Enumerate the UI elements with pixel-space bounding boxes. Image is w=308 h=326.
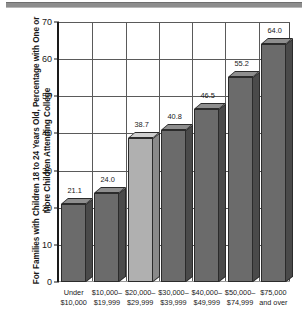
x-tick-label: $20,000–$29,999 [124, 288, 157, 307]
x-tick-label-line: and over [257, 298, 290, 308]
y-tick-label: 70 [42, 17, 59, 27]
x-tick-label-line: $74,999 [223, 298, 256, 308]
x-tick-label-line: $50,000– [223, 288, 256, 298]
bar-value-label: 24.0 [100, 175, 114, 184]
gridline-vertical [126, 22, 127, 282]
bar[interactable] [61, 204, 86, 282]
top-divider-rule [6, 2, 302, 8]
bar-face-side [219, 104, 226, 282]
bar-face-side [286, 39, 293, 282]
bar-value-label: 46.5 [200, 91, 214, 100]
x-tick-label: $30,000–$39,999 [157, 288, 190, 307]
y-tick-label: 50 [42, 91, 59, 101]
y-tick-label: 10 [42, 240, 59, 250]
x-tick-label-line: $10,000– [90, 288, 123, 298]
y-tick-label: 60 [42, 54, 59, 64]
y-tick-label: 20 [42, 203, 59, 213]
bar[interactable] [94, 193, 119, 282]
x-tick-label: $10,000–$19,999 [90, 288, 123, 307]
x-tick-label: $75,000and over [257, 288, 290, 307]
bar-value-label: 38.7 [134, 120, 148, 129]
x-tick-label-line: Under [57, 288, 90, 298]
bar-face-front [94, 193, 119, 282]
bar-value-label: 64.0 [267, 26, 281, 35]
bar-face-front [261, 44, 286, 282]
bar-face-side [86, 198, 93, 282]
x-tick-label-line: $75,000 [257, 288, 290, 298]
x-tick-label: $40,000–$49,999 [190, 288, 223, 307]
y-tick-label: 30 [42, 166, 59, 176]
bar[interactable] [194, 109, 219, 282]
x-tick-label-line: $30,000– [157, 288, 190, 298]
bar-face-side [119, 187, 126, 282]
bar[interactable] [261, 44, 286, 282]
x-tick-label: Under$10,000 [57, 288, 90, 307]
bar-face-front [61, 204, 86, 282]
x-tick-label: $50,000–$74,999 [223, 288, 256, 307]
x-tick-label-line: $29,999 [124, 298, 157, 308]
bar-face-front [128, 138, 153, 282]
gridline-horizontal [59, 22, 290, 23]
bar-face-side [153, 133, 160, 282]
plot-area: 010203040506070 21.124.038.740.846.555.2… [57, 22, 290, 282]
bar-face-front [161, 130, 186, 282]
bar-face-side [253, 72, 260, 282]
bar-value-label: 21.1 [67, 186, 81, 195]
x-tick-label-line: $49,999 [190, 298, 223, 308]
y-tick-label: 0 [47, 277, 59, 287]
x-tick-label-line: $19,999 [90, 298, 123, 308]
x-tick-label-line: $40,000– [190, 288, 223, 298]
bar-value-label: 55.2 [234, 59, 248, 68]
y-tick-label: 40 [42, 128, 59, 138]
bar-value-label: 40.8 [167, 112, 181, 121]
x-tick-label-line: $39,999 [157, 298, 190, 308]
bar[interactable] [161, 130, 186, 282]
bar-chart-figure: For Families with Children 18 to 24 Year… [0, 0, 308, 326]
bar[interactable] [228, 77, 253, 282]
bar-face-front [228, 77, 253, 282]
gridline-horizontal [59, 59, 290, 60]
bar-face-front [194, 109, 219, 282]
bar-face-side [186, 125, 193, 282]
x-tick-label-line: $10,000 [57, 298, 90, 308]
x-tick-label-line: $20,000– [124, 288, 157, 298]
bar[interactable] [128, 138, 153, 282]
